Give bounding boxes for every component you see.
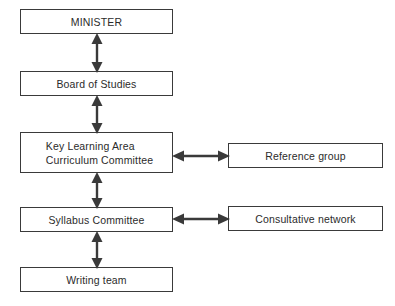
diagram-canvas: MINISTER Board of Studies Key Learning A… [0,0,395,306]
double-arrow-icon-minister-board [88,33,106,73]
node-board-of-studies: Board of Studies [20,71,173,96]
double-arrow-icon-board-kla [88,95,106,134]
node-key-learning-area-curriculum-committee-label: Key Learning Area Curriculum Committee [40,139,153,167]
double-arrow-icon-kla-reference [172,147,230,165]
node-syllabus-committee-label: Syllabus Committee [48,213,144,227]
node-board-of-studies-label: Board of Studies [56,77,136,91]
node-minister-label: MINISTER [71,15,122,29]
node-key-learning-area-curriculum-committee: Key Learning Area Curriculum Committee [20,132,173,173]
node-writing-team-label: Writing team [66,273,127,287]
node-minister: MINISTER [20,9,173,34]
double-arrow-icon-syllabus-writing [88,231,106,269]
node-reference-group: Reference group [228,143,383,168]
node-consultative-network: Consultative network [228,206,383,231]
double-arrow-icon-kla-syllabus [88,172,106,209]
node-reference-group-label: Reference group [265,149,345,163]
node-consultative-network-label: Consultative network [255,212,355,226]
node-syllabus-committee: Syllabus Committee [20,207,173,232]
double-arrow-icon-syllabus-consultative [172,210,230,228]
node-writing-team: Writing team [20,267,173,292]
